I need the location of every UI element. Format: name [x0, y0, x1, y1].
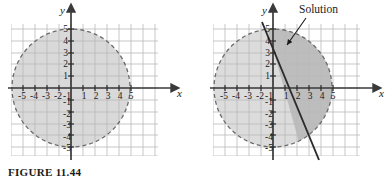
yt-45-2: 3 [265, 48, 270, 58]
yt-44-3: 2 [63, 59, 68, 69]
xt-44-8: 4 [118, 91, 123, 101]
yt-44-1: 4 [63, 36, 68, 46]
x-tick-label: -5 [18, 91, 26, 101]
xt-44-7: 3 [106, 91, 111, 101]
svg-text:-1: -1 [63, 97, 71, 107]
svg-text:4: 4 [63, 36, 68, 46]
xt-44-6: 2 [94, 91, 99, 101]
svg-text:-3: -3 [42, 91, 50, 101]
svg-text:2: 2 [296, 91, 301, 101]
yt-45-6: -2 [265, 109, 273, 119]
svg-text:-5: -5 [265, 143, 273, 153]
xt-45-5: 1 [284, 91, 289, 101]
svg-text:3: 3 [308, 91, 313, 101]
xt-45-6: 2 [296, 91, 301, 101]
svg-text:-2: -2 [265, 109, 273, 119]
figure-caption-11-44: FIGURE 11.44 [8, 166, 81, 176]
x-axis-label-45: x [378, 87, 384, 99]
yt-45-8: -4 [265, 132, 273, 142]
svg-text:1: 1 [265, 71, 270, 81]
svg-text:4: 4 [118, 91, 123, 101]
xt-45-7: 3 [308, 91, 313, 101]
y-axis-label-44: y [59, 4, 65, 16]
yt-44-9: -5 [63, 143, 71, 153]
svg-text:-5: -5 [220, 91, 228, 101]
figure-11-44: -5 -4 -3 -2 -1 1 2 3 4 5 5 4 3 2 1 -1 -2… [0, 0, 195, 176]
svg-text:-5: -5 [63, 143, 71, 153]
yt-44-7: -3 [63, 120, 71, 130]
svg-text:3: 3 [265, 48, 270, 58]
svg-text:-2: -2 [63, 109, 71, 119]
xt-45-0: -5 [220, 91, 228, 101]
svg-text:-2: -2 [256, 91, 264, 101]
plot-11-45: -5 -4 -3 -2 -1 1 2 3 4 5 5 4 3 2 1 -1 -2… [195, 0, 391, 176]
xt-44-0: -5 [18, 91, 26, 101]
xt-45-9: 5 [331, 91, 336, 101]
svg-text:-3: -3 [244, 91, 252, 101]
svg-text:-4: -4 [30, 91, 38, 101]
plot-11-44: -5 -4 -3 -2 -1 1 2 3 4 5 5 4 3 2 1 -1 -2… [0, 0, 195, 176]
y-axis-label-45: y [261, 4, 267, 16]
xt-44-9: 5 [129, 91, 134, 101]
svg-text:-2: -2 [54, 91, 62, 101]
svg-text:5: 5 [63, 24, 68, 34]
figure-pair: -5 -4 -3 -2 -1 1 2 3 4 5 5 4 3 2 1 -1 -2… [0, 0, 391, 176]
yt-45-9: -5 [265, 143, 273, 153]
svg-text:3: 3 [63, 48, 68, 58]
svg-text:-4: -4 [232, 91, 240, 101]
yt-45-3: 2 [265, 59, 270, 69]
xt-45-8: 4 [320, 91, 325, 101]
yt-44-4: 1 [63, 71, 68, 81]
svg-text:-1: -1 [265, 97, 273, 107]
xt-45-1: -4 [232, 91, 240, 101]
yt-45-0: 5 [265, 24, 270, 34]
yt-44-5: -1 [63, 97, 71, 107]
svg-text:-3: -3 [265, 120, 273, 130]
xt-44-5: 1 [82, 91, 87, 101]
svg-text:1: 1 [284, 91, 289, 101]
svg-text:2: 2 [94, 91, 99, 101]
svg-text:4: 4 [265, 36, 270, 46]
svg-text:-4: -4 [265, 132, 273, 142]
yt-45-5: -1 [265, 97, 273, 107]
figure-11-45: -5 -4 -3 -2 -1 1 2 3 4 5 5 4 3 2 1 -1 -2… [195, 0, 391, 176]
svg-text:5: 5 [331, 91, 336, 101]
svg-text:-3: -3 [63, 120, 71, 130]
yt-45-4: 1 [265, 71, 270, 81]
solution-annotation-label: Solution [299, 3, 338, 15]
svg-text:1: 1 [82, 91, 87, 101]
svg-text:5: 5 [265, 24, 270, 34]
svg-text:-4: -4 [63, 132, 71, 142]
xt-45-3: -2 [256, 91, 264, 101]
svg-text:5: 5 [129, 91, 134, 101]
xt-44-3: -2 [54, 91, 62, 101]
yt-45-7: -3 [265, 120, 273, 130]
svg-text:1: 1 [63, 71, 68, 81]
xt-44-2: -3 [42, 91, 50, 101]
svg-text:4: 4 [320, 91, 325, 101]
yt-44-0: 5 [63, 24, 68, 34]
x-axis-label-44: x [176, 87, 182, 99]
svg-text:3: 3 [106, 91, 111, 101]
svg-text:2: 2 [265, 59, 270, 69]
yt-44-2: 3 [63, 48, 68, 58]
xt-45-2: -3 [244, 91, 252, 101]
svg-text:2: 2 [63, 59, 68, 69]
xt-44-1: -4 [30, 91, 38, 101]
yt-44-6: -2 [63, 109, 71, 119]
yt-45-1: 4 [265, 36, 270, 46]
yt-44-8: -4 [63, 132, 71, 142]
